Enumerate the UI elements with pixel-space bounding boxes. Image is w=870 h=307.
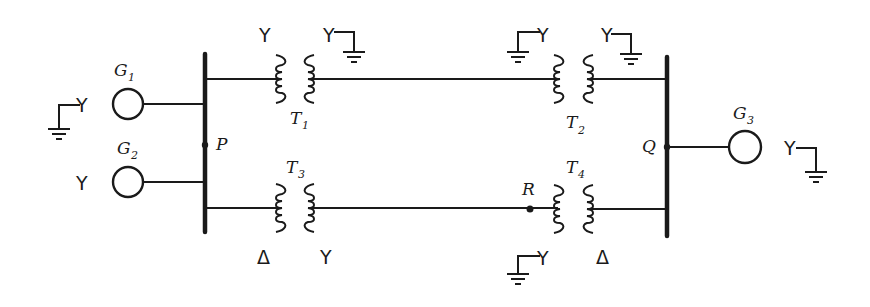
t1-right-grounded-wye-icon: Y xyxy=(322,24,365,62)
g1-subscript: 1 xyxy=(128,71,135,84)
t2-left-grounded-wye-icon: Y xyxy=(507,24,549,62)
transformer-t3: T 3 Δ Y xyxy=(257,157,332,268)
g2-wye-icon: Y xyxy=(75,172,88,194)
generator-g1: G 1 Y xyxy=(48,60,205,139)
svg-text:Y: Y xyxy=(322,24,335,46)
svg-text:Y: Y xyxy=(536,24,549,46)
t1-left-wye-icon: Y xyxy=(258,24,271,46)
g3-letter: G xyxy=(733,103,747,123)
g1-letter: G xyxy=(114,60,128,80)
t2-subscript: 2 xyxy=(577,124,585,137)
t3-left-delta-icon: Δ xyxy=(257,246,270,268)
node-r-label: R xyxy=(521,179,535,199)
bus-q-label: Q xyxy=(642,136,656,156)
g3-subscript: 3 xyxy=(747,114,754,127)
t4-right-delta-icon: Δ xyxy=(596,246,609,268)
g1-grounded-wye-icon: Y xyxy=(48,94,88,139)
t3-right-wye-icon: Y xyxy=(319,246,332,268)
t4-subscript: 4 xyxy=(577,168,585,181)
svg-text:Y: Y xyxy=(783,137,796,159)
t2-right-grounded-wye-icon: Y xyxy=(600,24,642,64)
line-bottom xyxy=(205,208,667,209)
bus-p: P xyxy=(202,54,228,232)
transformer-t4: T 4 Y Δ xyxy=(507,157,609,284)
t4-left-grounded-wye-icon: Y xyxy=(507,247,549,284)
g2-letter: G xyxy=(117,138,131,158)
generator-g2: G 2 Y xyxy=(75,138,205,197)
transformer-t2: T 2 Y Y xyxy=(507,24,642,137)
t3-subscript: 3 xyxy=(298,168,305,181)
g3-grounded-wye-icon: Y xyxy=(783,137,827,182)
g2-subscript: 2 xyxy=(130,149,138,162)
t1-subscript: 1 xyxy=(302,119,309,132)
bus-p-label: P xyxy=(215,134,228,154)
svg-text:Y: Y xyxy=(536,247,549,269)
generator-g3: G 3 Y xyxy=(667,103,827,182)
power-system-diagram: P Q G 1 Y G 2 Y T 1 Y xyxy=(0,0,870,307)
